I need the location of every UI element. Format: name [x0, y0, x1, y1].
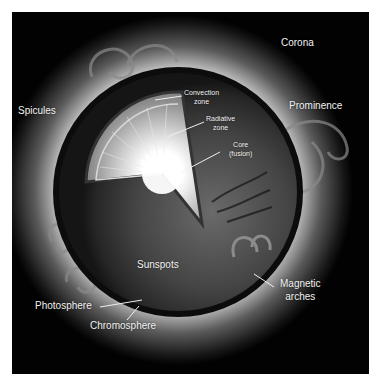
label-radiative-zone: Radiative zone: [206, 115, 235, 133]
label-spicules: Spicules: [18, 106, 56, 116]
label-core: Core (fusion): [229, 141, 252, 159]
sun-diagram-frame: Corona Spicules Prominence Convection zo…: [12, 12, 369, 374]
label-core-line2: (fusion): [229, 150, 252, 157]
label-magnetic-arches-line1: Magnetic: [280, 278, 321, 289]
label-convection-zone: Convection zone: [184, 89, 219, 107]
label-magnetic-arches-line2: arches: [285, 291, 315, 302]
label-sunspots: Sunspots: [137, 260, 179, 270]
label-prominence: Prominence: [289, 101, 342, 111]
label-radiative-zone-line2: zone: [213, 124, 228, 131]
label-chromosphere: Chromosphere: [90, 321, 156, 331]
core-bright: [142, 154, 182, 194]
label-convection-zone-line2: zone: [194, 98, 209, 105]
label-photosphere: Photosphere: [35, 301, 92, 311]
sun-illustration: [12, 12, 369, 374]
label-corona: Corona: [281, 38, 314, 48]
label-core-line1: Core: [233, 141, 248, 148]
label-convection-zone-line1: Convection: [184, 89, 219, 96]
label-radiative-zone-line1: Radiative: [206, 115, 235, 122]
label-magnetic-arches: Magnetic arches: [280, 278, 321, 303]
